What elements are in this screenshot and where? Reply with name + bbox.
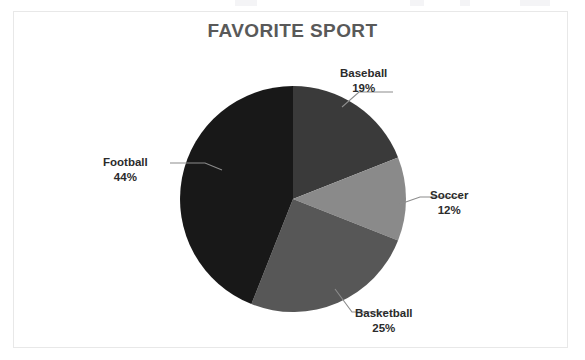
- pie-label-soccer-name: Soccer: [430, 189, 468, 201]
- pie-label-baseball-value: 19%: [340, 81, 387, 96]
- pie-label-soccer-value: 12%: [430, 203, 468, 218]
- pie-label-basketball-name: Basketball: [355, 307, 413, 319]
- pie-label-basketball-value: 25%: [355, 321, 413, 336]
- pie-label-baseball: Baseball 19%: [340, 66, 387, 95]
- pie-label-baseball-name: Baseball: [340, 67, 387, 79]
- pie-label-basketball: Basketball 25%: [355, 306, 413, 335]
- pie-chart: [0, 0, 585, 360]
- pie-label-football-value: 44%: [103, 170, 148, 185]
- pie-label-football-name: Football: [103, 156, 148, 168]
- pie-label-soccer: Soccer 12%: [430, 188, 468, 217]
- pie-label-football: Football 44%: [103, 155, 148, 184]
